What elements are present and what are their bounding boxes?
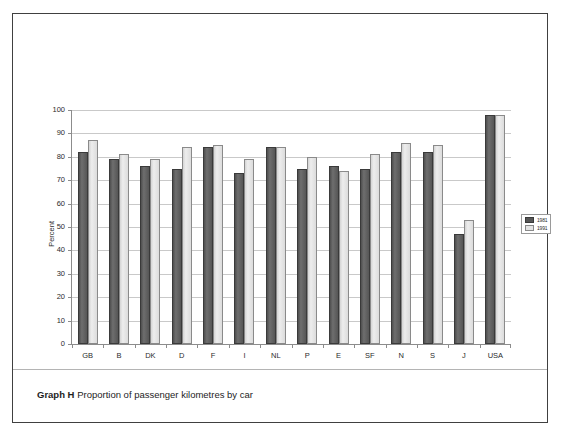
bar-group: D xyxy=(166,110,197,344)
figure-caption: Graph H Proportion of passenger kilometr… xyxy=(37,389,253,400)
y-axis-tick-label: 30 xyxy=(57,270,65,278)
x-axis-tick-label: D xyxy=(179,352,184,360)
bar-group: GB xyxy=(72,110,103,344)
x-axis-tick xyxy=(448,344,449,348)
bar xyxy=(297,169,307,345)
x-axis-tick-label: S xyxy=(430,352,435,360)
x-axis-tick xyxy=(510,344,511,348)
x-axis-tick xyxy=(135,344,136,348)
bar-group: USA xyxy=(480,110,511,344)
bar xyxy=(88,140,98,344)
bar-group: S xyxy=(417,110,448,344)
x-axis-tick-label: F xyxy=(211,352,216,360)
x-axis-tick xyxy=(229,344,230,348)
bar xyxy=(360,169,370,345)
x-axis-tick-label: GB xyxy=(82,352,93,360)
x-axis-tick xyxy=(417,344,418,348)
bar xyxy=(329,166,339,344)
y-axis-tick-label: 50 xyxy=(57,223,65,231)
bar xyxy=(307,157,317,344)
bar-group: P xyxy=(292,110,323,344)
bar xyxy=(182,147,192,344)
bar xyxy=(140,166,150,344)
x-axis-tick xyxy=(197,344,198,348)
legend-item: 1981 xyxy=(525,217,547,223)
bar xyxy=(150,159,160,344)
bar-group: E xyxy=(323,110,354,344)
x-axis-tick xyxy=(260,344,261,348)
bar xyxy=(244,159,254,344)
x-axis-tick-label: J xyxy=(462,352,466,360)
x-axis-tick xyxy=(72,344,73,348)
bar xyxy=(276,147,286,344)
y-axis-tick-label: 20 xyxy=(57,293,65,301)
x-axis-tick xyxy=(386,344,387,348)
bar xyxy=(433,145,443,344)
legend-item: 1991 xyxy=(525,225,547,231)
bar xyxy=(370,154,380,344)
bar-group: B xyxy=(103,110,134,344)
legend-label: 1991 xyxy=(537,226,547,231)
y-axis-tick-label: 0 xyxy=(61,340,65,348)
x-axis-tick-label: N xyxy=(399,352,404,360)
x-axis-tick xyxy=(480,344,481,348)
bar xyxy=(391,152,401,344)
y-axis-title: Percent xyxy=(47,221,56,247)
x-axis-tick-label: DK xyxy=(145,352,155,360)
bar xyxy=(213,145,223,344)
x-axis-tick xyxy=(103,344,104,348)
y-axis-tick-label: 100 xyxy=(52,106,65,114)
figure-caption-label: Graph H xyxy=(37,389,74,400)
bar xyxy=(423,152,433,344)
bar xyxy=(401,143,411,344)
bar-group: J xyxy=(448,110,479,344)
legend-swatch xyxy=(525,217,534,223)
x-axis-tick xyxy=(323,344,324,348)
x-axis-tick-label: NL xyxy=(271,352,281,360)
figure-frame: Percent 0102030405060708090100 GBBDKDFIN… xyxy=(12,13,548,423)
bar xyxy=(454,234,464,344)
bars-layer: GBBDKDFINLPESFNSJUSA xyxy=(72,110,511,344)
bar-group: SF xyxy=(354,110,385,344)
bar-group: N xyxy=(386,110,417,344)
bar xyxy=(339,171,349,344)
x-axis-tick-label: P xyxy=(305,352,310,360)
caption-divider xyxy=(13,369,547,370)
chart-plot-area: 0102030405060708090100 GBBDKDFINLPESFNSJ… xyxy=(71,110,511,345)
legend-label: 1981 xyxy=(537,218,547,223)
x-axis-tick xyxy=(166,344,167,348)
bar xyxy=(266,147,276,344)
bar xyxy=(234,173,244,344)
x-axis-tick xyxy=(292,344,293,348)
bar-group: I xyxy=(229,110,260,344)
bar-group: F xyxy=(197,110,228,344)
x-axis-tick-label: E xyxy=(336,352,341,360)
legend-swatch xyxy=(525,225,534,231)
x-axis-tick-label: USA xyxy=(488,352,503,360)
bar xyxy=(203,147,213,344)
x-axis-tick-label: B xyxy=(117,352,122,360)
x-axis-tick xyxy=(354,344,355,348)
figure-caption-text: Proportion of passenger kilometres by ca… xyxy=(77,389,253,400)
y-axis-tick-label: 10 xyxy=(57,317,65,325)
chart-legend: 19811991 xyxy=(521,214,551,234)
y-axis-tick-label: 40 xyxy=(57,247,65,255)
bar xyxy=(464,220,474,344)
bar-group: DK xyxy=(135,110,166,344)
bar xyxy=(119,154,129,344)
y-axis-tick-label: 90 xyxy=(57,130,65,138)
y-axis-tick-label: 70 xyxy=(57,176,65,184)
bar xyxy=(78,152,88,344)
bar-group: NL xyxy=(260,110,291,344)
x-axis-tick-label: I xyxy=(243,352,245,360)
bar xyxy=(485,115,495,344)
x-axis-tick-label: SF xyxy=(365,352,375,360)
chart-plot-wrapper: Percent 0102030405060708090100 GBBDKDFIN… xyxy=(57,96,512,346)
bar xyxy=(109,159,119,344)
bar xyxy=(495,115,505,344)
bar xyxy=(172,169,182,345)
y-axis-tick-label: 60 xyxy=(57,200,65,208)
y-axis-tick-label: 80 xyxy=(57,153,65,161)
